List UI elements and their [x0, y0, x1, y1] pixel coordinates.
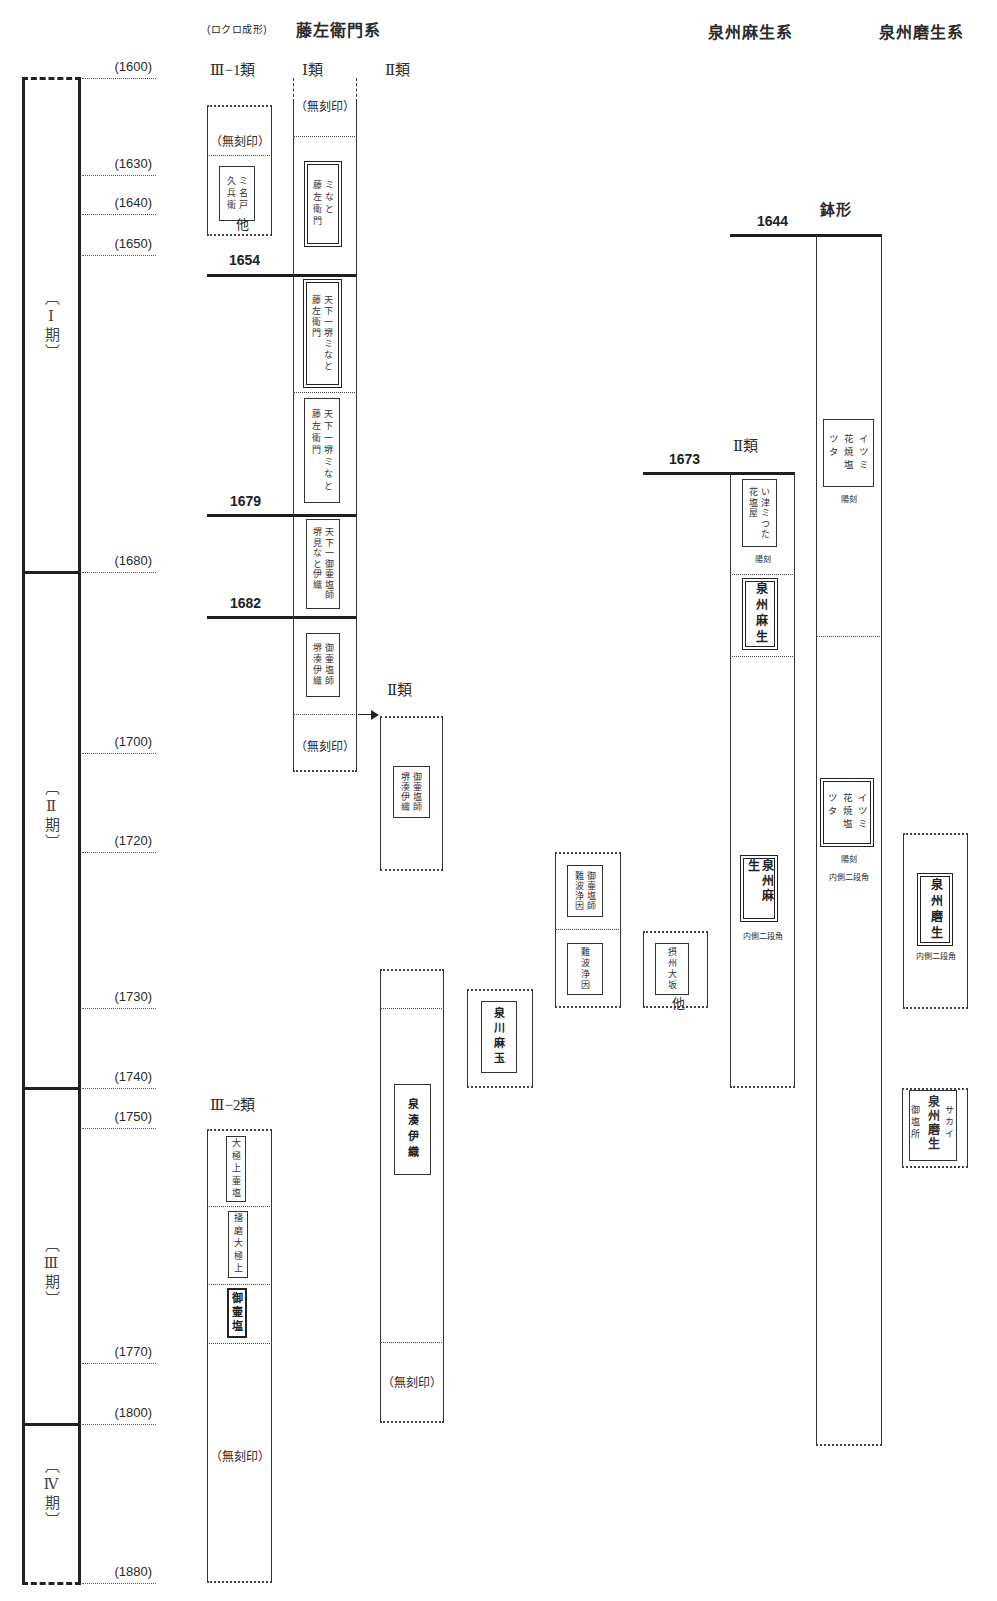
year-label: (1880)	[114, 1564, 152, 1580]
stamp-text: 難波浄因	[579, 947, 591, 991]
stamp-text-main: 泉州磨生	[925, 1095, 942, 1151]
stamp-sakai-senshu-maso-oshiodokoro: サカイ 泉州磨生 御塩所	[909, 1090, 957, 1161]
stamp-text: い津ミつた 花塩屋	[748, 487, 772, 540]
segment-divider	[816, 636, 882, 637]
segment-divider	[207, 1206, 272, 1207]
stamp-senshu-aso: 泉州麻生	[742, 578, 778, 650]
year-label: (1600)	[114, 59, 152, 75]
year-label: (1750)	[114, 1109, 152, 1125]
year-label: (1740)	[114, 1069, 152, 1085]
type-label-i: Ⅰ類	[302, 58, 323, 79]
stamp-onshioshi-sakaiminato-iori: 御壷塩師 堺湊伊織	[393, 766, 430, 818]
stamp-text: 御壷塩師 堺湊伊織	[400, 772, 424, 812]
series-title-izumi-maso: 泉州磨生系	[879, 19, 964, 43]
period-column-bottom-dashed	[22, 1582, 81, 1585]
other-note: 他	[236, 214, 249, 233]
stamp-text-right: サカイ	[944, 1105, 957, 1141]
segment-divider	[380, 1342, 444, 1343]
stamp-text-left: 御塩所	[910, 1105, 923, 1141]
date-marker-1682: 1682	[230, 595, 261, 611]
year-gridline	[82, 1088, 156, 1089]
stamp-text: 御壷塩師 堺湊伊織	[311, 643, 335, 687]
stamp-onshioshi-nanba-join: 御壷塩師 難波浄因	[567, 865, 603, 917]
period-label-iii: 〔Ⅲ期〕	[42, 1237, 62, 1308]
relief-note: 陽刻	[816, 495, 882, 505]
unstamped-label: （無刻印）	[380, 1375, 444, 1391]
year-gridline	[82, 1128, 156, 1129]
year-label: (1650)	[114, 236, 152, 252]
segment-divider	[293, 136, 357, 137]
stamp-text: 播磨大極上	[232, 1213, 244, 1276]
segment-divider	[555, 929, 621, 930]
stamp-senminato-iori: 泉湊伊織	[394, 1084, 431, 1175]
stamp-onshioshi-sakaiminato-iori: 御壷塩師 堺湊伊織	[306, 633, 340, 697]
period-column-top-dashed	[22, 77, 81, 80]
relief-note: 陽刻	[730, 555, 795, 565]
stamp-text: 泉州磨生	[928, 878, 942, 942]
stamp-tenkaichi-sakai-minato-fujizaemon: 天下一堺ミなと 藤左衛門	[304, 398, 340, 503]
stamp-mina-kyubei: ミ名戸 久兵衛	[219, 166, 255, 221]
year-label: (1640)	[114, 195, 152, 211]
period-divider-ii-iii	[22, 1087, 81, 1090]
year-gridline	[82, 1583, 156, 1584]
segment-divider	[207, 155, 272, 156]
stamp-tenkaichi-sakai-minato-fujizaemon: 天下一堺ミなと 藤左衛門	[303, 279, 342, 388]
type-label-aso-ii: Ⅱ類	[733, 434, 758, 455]
year-label: (1700)	[114, 734, 152, 750]
stamp-text: イツミ 花焼塩 ツタ	[826, 434, 871, 473]
unstamped-label: （無刻印）	[207, 1449, 272, 1465]
year-gridline	[82, 1008, 156, 1009]
year-gridline	[82, 175, 156, 176]
stamp-daigokujo-tsuboshio: 大極上壷塩	[226, 1136, 246, 1202]
type-label-iii-1: Ⅲ−1類	[210, 58, 255, 79]
stamp-text: ミ名戸 久兵衛	[225, 176, 249, 212]
year-label: (1770)	[114, 1344, 152, 1360]
year-gridline	[82, 852, 156, 853]
other-note: 他	[672, 993, 685, 1012]
arrow-right-icon	[371, 710, 379, 720]
stamp-izumi-hanayakishio-tsuta: イツミ 花焼塩 ツタ	[823, 419, 874, 487]
segment-divider	[207, 1284, 272, 1285]
stamp-senshu-maso: 泉州磨生	[917, 873, 953, 946]
segment-divider	[293, 714, 357, 715]
year-label: (1730)	[114, 989, 152, 1005]
segment-divider	[207, 1343, 272, 1344]
series-title-fujizaemon: 藤左衛門系	[296, 17, 381, 41]
stamp-text: 大極上壷塩	[230, 1138, 242, 1201]
segment-divider	[380, 1008, 444, 1009]
year-gridline	[82, 214, 156, 215]
stamp-text: 天下一堺ミなと 藤左衛門	[311, 295, 335, 372]
transition-arrow-line	[358, 714, 372, 715]
stamp-text: 御壷塩	[231, 1292, 243, 1334]
inner-two-step-note: 内側二段角	[816, 873, 882, 883]
type-label-ii: Ⅱ類	[387, 678, 412, 699]
stamp-text: 泉川麻玉	[493, 1007, 505, 1067]
date-marker-1673: 1673	[669, 451, 700, 467]
stamp-senkawa-asatama: 泉川麻玉	[481, 1001, 517, 1073]
stamp-text: 泉州麻生	[745, 859, 773, 918]
stamp-text: 天下一堺ミなと 藤左衛門	[310, 409, 334, 493]
stamp-text: 泉湊伊織	[407, 1098, 419, 1162]
year-gridline	[82, 1424, 156, 1425]
period-label-iv: 〔Ⅳ期〕	[42, 1458, 62, 1529]
year-gridline	[82, 78, 156, 79]
stamp-nanba-join: 難波浄因	[567, 943, 603, 995]
type-label-hachi: 鉢形	[820, 198, 852, 219]
stamp-tenkaichi-onshioshi-sakai-iori: 天下一御壷塩師 堺見なと伊織	[306, 519, 340, 609]
relief-note: 陽刻	[816, 855, 882, 865]
column-ii-late	[380, 969, 444, 1423]
unstamped-label: （無刻印）	[293, 739, 357, 755]
year-gridline	[82, 255, 156, 256]
year-label: (1720)	[114, 833, 152, 849]
year-label: (1630)	[114, 156, 152, 172]
period-divider-iii-iv	[22, 1423, 81, 1426]
segment-divider	[730, 656, 795, 657]
segment-divider	[730, 574, 795, 575]
stamp-text: ミなと 藤左衛門	[311, 180, 335, 228]
type-label-ii: Ⅱ類	[385, 58, 410, 79]
period-label-ii: 〔Ⅱ期〕	[42, 780, 62, 851]
date-marker-1644: 1644	[757, 213, 788, 229]
stamp-harima-daigokujo: 播磨大極上	[228, 1211, 248, 1278]
unstamped-label: （無刻印）	[293, 99, 357, 115]
stamp-text: 摂州大坂	[666, 947, 678, 991]
